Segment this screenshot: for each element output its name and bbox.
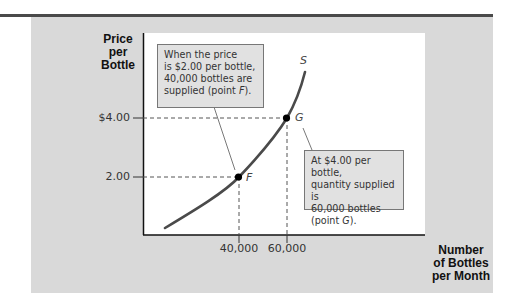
callout-text-prefix: (point bbox=[311, 215, 342, 226]
callout-text: (point G). bbox=[311, 215, 397, 227]
x-axis-label: Number of Bottles per Month bbox=[416, 244, 506, 283]
callout-text: When the price bbox=[164, 49, 257, 61]
x-axis-label-line: per Month bbox=[416, 270, 506, 283]
y-axis-label: Price per Bottle bbox=[88, 33, 148, 72]
callout-text: is $2.00 per bottle, bbox=[164, 61, 257, 73]
point-g-label: G bbox=[295, 111, 304, 124]
leader-line-f bbox=[214, 107, 235, 170]
point-f-marker bbox=[235, 173, 242, 180]
y-axis-label-line: Bottle bbox=[88, 59, 148, 72]
x-tick-label-right: 60,000 bbox=[268, 242, 307, 255]
callout-text: 60,000 bottles bbox=[311, 203, 397, 215]
callout-text-suffix: ). bbox=[350, 215, 357, 226]
x-tick-label-left: 40,000 bbox=[220, 242, 259, 255]
callout-text: quantity supplied is bbox=[311, 179, 397, 203]
y-tick-label-low: 2.00 bbox=[106, 170, 131, 183]
callout-text-prefix: supplied (point bbox=[164, 85, 239, 96]
callout-text: supplied (point F). bbox=[164, 85, 257, 97]
callout-text: At $4.00 per bottle, bbox=[311, 155, 397, 179]
point-g-marker bbox=[283, 114, 290, 121]
point-f-label: F bbox=[246, 171, 252, 184]
curve-label-s: S bbox=[300, 54, 307, 67]
callout-point-f: When the price is $2.00 per bottle, 40,0… bbox=[157, 44, 264, 108]
callout-text: 40,000 bottles are bbox=[164, 73, 257, 85]
leader-line-g bbox=[303, 128, 312, 150]
callout-text-suffix: ). bbox=[244, 85, 251, 96]
y-tick-label-high: $4.00 bbox=[99, 111, 131, 124]
callout-point-ref: G bbox=[342, 215, 349, 226]
callout-point-g: At $4.00 per bottle, quantity supplied i… bbox=[304, 150, 404, 210]
